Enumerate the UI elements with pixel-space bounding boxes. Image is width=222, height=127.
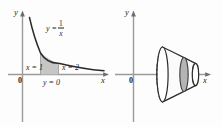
figure-solid-of-revolution: y x 0	[111, 0, 222, 127]
origin-label: 0	[18, 77, 22, 85]
fraction-one-over-x: 1 x	[58, 20, 64, 37]
origin-label: 0	[129, 77, 133, 85]
curve-equation-label: y = 1 x	[46, 20, 64, 37]
x-axis-label: x	[101, 76, 105, 85]
y-axis-label: y	[14, 8, 18, 17]
y-axis-group	[131, 11, 136, 123]
right-bound-label: x = 2	[62, 64, 79, 72]
left-bound-label: x = 1	[26, 64, 43, 72]
representative-disk-cross-section	[180, 58, 188, 92]
x-axis-label: x	[203, 76, 207, 85]
y-axis-arrow-icon	[131, 11, 136, 17]
y-axis-group	[20, 11, 25, 123]
y-axis-label: y	[125, 8, 129, 17]
y-axis-arrow-icon	[20, 11, 25, 17]
lower-bound-label: y = 0	[43, 79, 60, 87]
right-figure-canvas	[111, 0, 222, 127]
figure-graph-one-over-x: y = 1 x y x 0 x = 1 x = 2 y = 0	[0, 0, 111, 127]
